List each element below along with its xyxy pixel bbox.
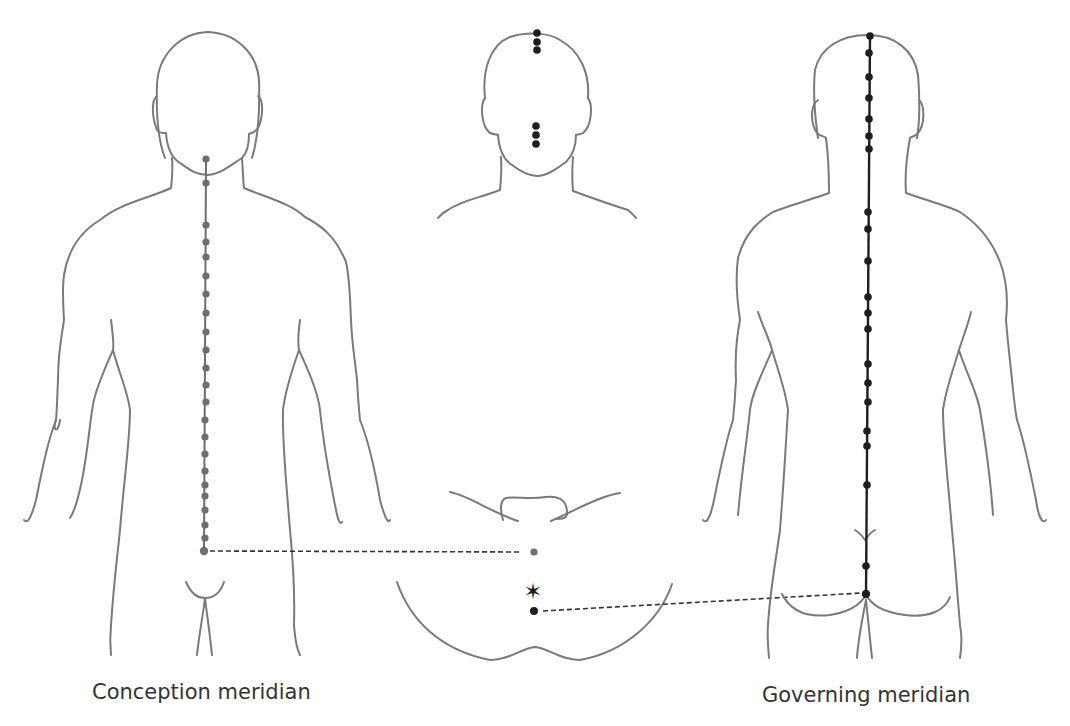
- head-points: [532, 29, 541, 148]
- conception-start-point: [530, 548, 537, 555]
- perineum-star-icon: ✶: [524, 579, 542, 604]
- governing-meridian-label: Governing meridian: [762, 683, 970, 707]
- governing-connection-line: [543, 593, 862, 611]
- conception-connection-line: [210, 551, 522, 552]
- governing-meridian-points: [862, 32, 874, 598]
- meridian-diagram: ✶: [0, 0, 1070, 726]
- governing-start-point: [530, 607, 538, 615]
- conception-meridian-line: [204, 159, 206, 551]
- back-body-outline: [703, 35, 1046, 658]
- conception-meridian-label: Conception meridian: [92, 680, 311, 704]
- front-body-outline: [24, 32, 390, 655]
- perineum-inset-outline: [397, 492, 672, 660]
